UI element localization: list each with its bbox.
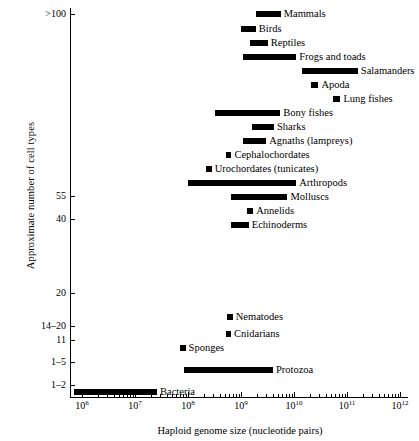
range-bar — [226, 331, 231, 337]
range-bar — [74, 389, 157, 395]
y-tick-label-5: 11 — [0, 335, 66, 345]
bar-label-4: Salamanders — [361, 66, 415, 77]
y-tick-label-0: >100 — [0, 9, 66, 19]
x-tick-minor — [372, 394, 373, 397]
bar-label-16: Nematodes — [236, 312, 283, 323]
range-bar — [243, 54, 296, 60]
bar-label-5: Apoda — [322, 80, 350, 91]
bar-label-17: Cnidarians — [234, 329, 280, 340]
y-tick-label-text: >100 — [45, 9, 66, 19]
x-tick-label-6: 1012 — [392, 399, 409, 411]
x-tick-minor — [229, 394, 230, 397]
x-tick-label-1: 107 — [128, 399, 142, 411]
bar-label-18: Sponges — [189, 343, 225, 354]
y-tick-mark — [70, 340, 75, 341]
bar-label-1: Birds — [259, 24, 282, 35]
bar-label-20: Bacteria — [160, 387, 195, 398]
x-tick-minor — [233, 394, 234, 397]
y-tick-label-2: 40 — [0, 214, 66, 224]
range-bar — [184, 367, 273, 373]
y-tick-mark — [70, 362, 75, 363]
range-bar — [206, 166, 212, 172]
y-tick-mark — [70, 14, 75, 15]
x-tick-label-3: 109 — [234, 399, 248, 411]
range-bar — [226, 152, 231, 158]
x-tick-minor — [363, 394, 364, 397]
x-tick-minor — [345, 394, 346, 397]
bar-label-9: Agnaths (lampreys) — [269, 136, 352, 147]
bar-label-6: Lung fishes — [343, 94, 392, 105]
bar-label-12: Arthropods — [299, 178, 347, 189]
x-tick-minor — [384, 394, 385, 397]
x-tick-minor — [319, 394, 320, 397]
x-tick-minor — [335, 394, 336, 397]
x-tick-minor — [292, 394, 293, 397]
x-tick-minor — [388, 394, 389, 397]
x-tick-minor — [326, 394, 327, 397]
range-bar — [333, 96, 340, 102]
range-bar — [231, 222, 249, 228]
range-bar — [188, 180, 296, 186]
x-tick-minor — [395, 394, 396, 397]
x-tick-minor — [236, 394, 237, 397]
y-tick-label-text: 1–5 — [51, 357, 66, 367]
x-tick-minor — [220, 394, 221, 397]
bar-label-19: Protozoa — [276, 365, 313, 376]
y-tick-mark — [70, 385, 75, 386]
range-bar — [247, 208, 253, 214]
y-tick-label-1: 55 — [0, 191, 66, 201]
x-tick-minor — [282, 394, 283, 397]
genome-size-cell-types-chart: Approximate number of cell types Haploid… — [0, 0, 419, 441]
x-tick-mark — [347, 392, 348, 397]
y-tick-mark — [70, 293, 75, 294]
x-tick-mark — [241, 392, 242, 397]
y-tick-label-text: 40 — [56, 214, 66, 224]
bar-label-11: Urochordates (tunicates) — [215, 164, 319, 175]
x-tick-minor — [289, 394, 290, 397]
range-bar — [311, 82, 318, 88]
bar-label-10: Cephalochordates — [234, 150, 309, 161]
y-tick-label-text: 11 — [56, 335, 66, 345]
y-tick-mark — [70, 326, 75, 327]
bar-label-13: Molluscs — [290, 192, 329, 203]
range-bar — [227, 314, 233, 320]
range-bar — [241, 26, 256, 32]
bar-label-2: Reptiles — [271, 38, 305, 49]
range-bar — [252, 124, 274, 130]
bar-label-14: Annelids — [256, 206, 294, 217]
x-tick-label-0: 106 — [75, 399, 89, 411]
x-tick-minor — [398, 394, 399, 397]
range-bar — [180, 345, 186, 351]
x-tick-mark — [400, 392, 401, 397]
y-tick-mark — [70, 219, 75, 220]
x-tick-minor — [339, 394, 340, 397]
x-tick-minor — [239, 394, 240, 397]
bar-label-0: Mammals — [284, 9, 326, 20]
x-tick-minor — [342, 394, 343, 397]
range-bar — [243, 138, 266, 144]
y-tick-label-text: 14–20 — [41, 321, 66, 331]
x-tick-minor — [204, 394, 205, 397]
y-tick-mark — [70, 196, 75, 197]
y-tick-label-text: 1–2 — [51, 380, 66, 390]
x-tick-minor — [392, 394, 393, 397]
x-axis-label: Haploid genome size (nucleotide pairs) — [70, 425, 410, 436]
y-axis-line — [70, 8, 71, 397]
range-bar — [231, 194, 287, 200]
x-tick-minor — [266, 394, 267, 397]
x-tick-label-5: 1011 — [339, 399, 356, 411]
x-tick-label-2: 108 — [181, 399, 195, 411]
y-tick-label-4: 14–20 — [0, 321, 66, 331]
x-tick-mark — [294, 392, 295, 397]
x-tick-minor — [257, 394, 258, 397]
bar-label-8: Sharks — [277, 122, 306, 133]
x-tick-minor — [278, 394, 279, 397]
bar-label-3: Frogs and toads — [299, 52, 366, 63]
y-tick-label-3: 20 — [0, 288, 66, 298]
y-tick-label-7: 1–2 — [0, 380, 66, 390]
range-bar — [215, 110, 280, 116]
x-tick-label-4: 1010 — [286, 399, 303, 411]
x-tick-minor — [225, 394, 226, 397]
x-tick-minor — [286, 394, 287, 397]
x-tick-minor — [310, 394, 311, 397]
